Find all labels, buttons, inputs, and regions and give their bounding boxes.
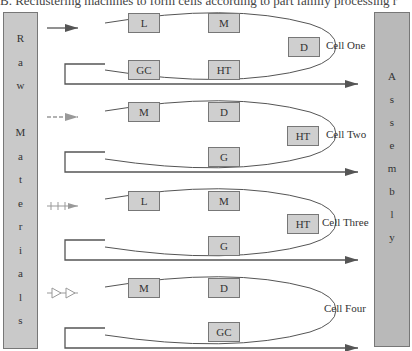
input-arrow-plus [47, 202, 78, 210]
machine-l: L [128, 191, 160, 211]
machine-g: G [208, 147, 240, 167]
machine-l: L [128, 13, 160, 33]
machine-gc: GC [128, 60, 160, 80]
machine-d: D [208, 102, 240, 122]
cell-one-label: Cell One [326, 39, 365, 51]
cell-four-group [47, 277, 358, 348]
cell-two-label: Cell Two [326, 128, 366, 140]
machine-g: G [208, 236, 240, 256]
machine-m: M [128, 278, 160, 298]
machine-d: D [288, 37, 320, 57]
machine-d: D [208, 278, 240, 298]
machine-m: M [128, 102, 160, 122]
flow-diagram [0, 0, 412, 351]
machine-ht: HT [208, 60, 240, 80]
machine-ht: HT [287, 214, 319, 234]
machine-gc: GC [208, 322, 240, 342]
machine-m: M [208, 191, 240, 211]
cell-three-label: Cell Three [322, 216, 369, 228]
input-arrow-open-triangles [47, 288, 78, 298]
machine-m: M [208, 13, 240, 33]
cell-four-label: Cell Four [324, 302, 366, 314]
machine-ht: HT [287, 126, 319, 146]
